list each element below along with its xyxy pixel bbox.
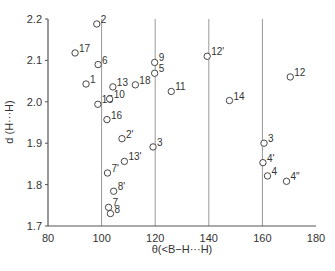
point-label: 18 (139, 75, 151, 86)
y-tick-label: 1.7 (27, 220, 42, 232)
circle-marker-icon (264, 173, 270, 179)
circle-marker-icon (95, 61, 101, 67)
scatter-chart: 80100120140160180 1.71.81.92.02.12.2 217… (0, 0, 335, 271)
circle-marker-icon (72, 50, 78, 56)
point-label: 12 (294, 67, 306, 78)
circle-marker-icon (150, 144, 156, 150)
point-label: 9 (159, 52, 165, 63)
y-tick-label: 2.1 (27, 54, 42, 66)
data-point: 1 (83, 74, 96, 87)
y-tick-label: 1.8 (27, 179, 42, 191)
circle-marker-icon (104, 116, 110, 122)
data-point: 17 (72, 43, 91, 56)
point-label: 5 (159, 63, 165, 74)
point-label: 14 (233, 91, 245, 102)
data-point: 14 (226, 91, 245, 104)
circle-marker-icon (104, 170, 110, 176)
circle-marker-icon (226, 97, 232, 103)
circle-marker-icon (283, 178, 289, 184)
data-point: 11 (168, 81, 186, 94)
data-point: 18 (132, 75, 151, 88)
circle-marker-icon (121, 158, 127, 164)
data-point: 3 (150, 137, 163, 150)
y-tick-label: 2.2 (27, 13, 42, 25)
point-label: 1 (90, 74, 96, 85)
x-tick-label: 100 (92, 232, 110, 244)
point-label: 13 (117, 77, 129, 88)
point-label: 3 (157, 137, 163, 148)
point-label: 3 (268, 133, 274, 144)
circle-marker-icon (83, 81, 89, 87)
y-tick-label: 1.9 (27, 137, 42, 149)
circle-marker-icon (151, 70, 157, 76)
data-point: 8' (110, 181, 125, 194)
data-point: 13' (121, 151, 141, 164)
y-axis-label: d (H···H) (3, 100, 15, 143)
data-point: 16 (104, 110, 123, 123)
circle-marker-icon (287, 74, 293, 80)
x-tick-label: 180 (307, 232, 325, 244)
circle-marker-icon (94, 21, 100, 27)
circle-marker-icon (105, 204, 111, 210)
point-label: 2 (101, 14, 107, 25)
vertical-gridlines (102, 19, 263, 226)
data-point: 7' (104, 163, 119, 176)
point-label: 8 (114, 204, 120, 215)
point-label: 7' (111, 163, 119, 174)
circle-marker-icon (151, 59, 157, 65)
point-label: 8' (118, 181, 126, 192)
y-tick-label: 2.0 (27, 96, 42, 108)
point-label: 4" (291, 171, 301, 182)
data-point: 4" (283, 171, 300, 184)
circle-marker-icon (106, 96, 112, 102)
data-point: 10 (106, 89, 125, 102)
x-axis-label: θ(<B−H···H) (152, 243, 213, 255)
circle-marker-icon (204, 53, 210, 59)
circle-marker-icon (261, 140, 267, 146)
data-points: 2176113189512'1211151014162'3313'7'4'44"… (72, 14, 306, 217)
circle-marker-icon (110, 188, 116, 194)
point-label: 4 (271, 166, 277, 177)
x-tick-label: 160 (253, 232, 271, 244)
data-point: 12' (204, 46, 224, 59)
data-point: 2' (119, 129, 134, 142)
circle-marker-icon (107, 210, 113, 216)
point-label: 13' (128, 151, 141, 162)
x-tick-label: 80 (42, 232, 54, 244)
circle-marker-icon (168, 88, 174, 94)
data-point: 2 (94, 14, 107, 27)
data-point: 4 (264, 166, 277, 179)
point-label: 11 (175, 81, 186, 92)
point-label: 2' (126, 129, 134, 140)
data-point: 12 (287, 67, 306, 80)
point-label: 10 (114, 89, 126, 100)
point-label: 12' (211, 46, 224, 57)
circle-marker-icon (132, 82, 138, 88)
circle-marker-icon (260, 159, 266, 165)
point-label: 16 (111, 110, 123, 121)
point-label: 17 (79, 43, 91, 54)
y-axis-ticks: 1.71.81.92.02.12.2 (27, 13, 48, 232)
data-point: 6 (95, 55, 108, 68)
circle-marker-icon (95, 101, 101, 107)
circle-marker-icon (119, 135, 125, 141)
point-label: 6 (102, 55, 108, 66)
point-label: 4' (267, 153, 275, 164)
